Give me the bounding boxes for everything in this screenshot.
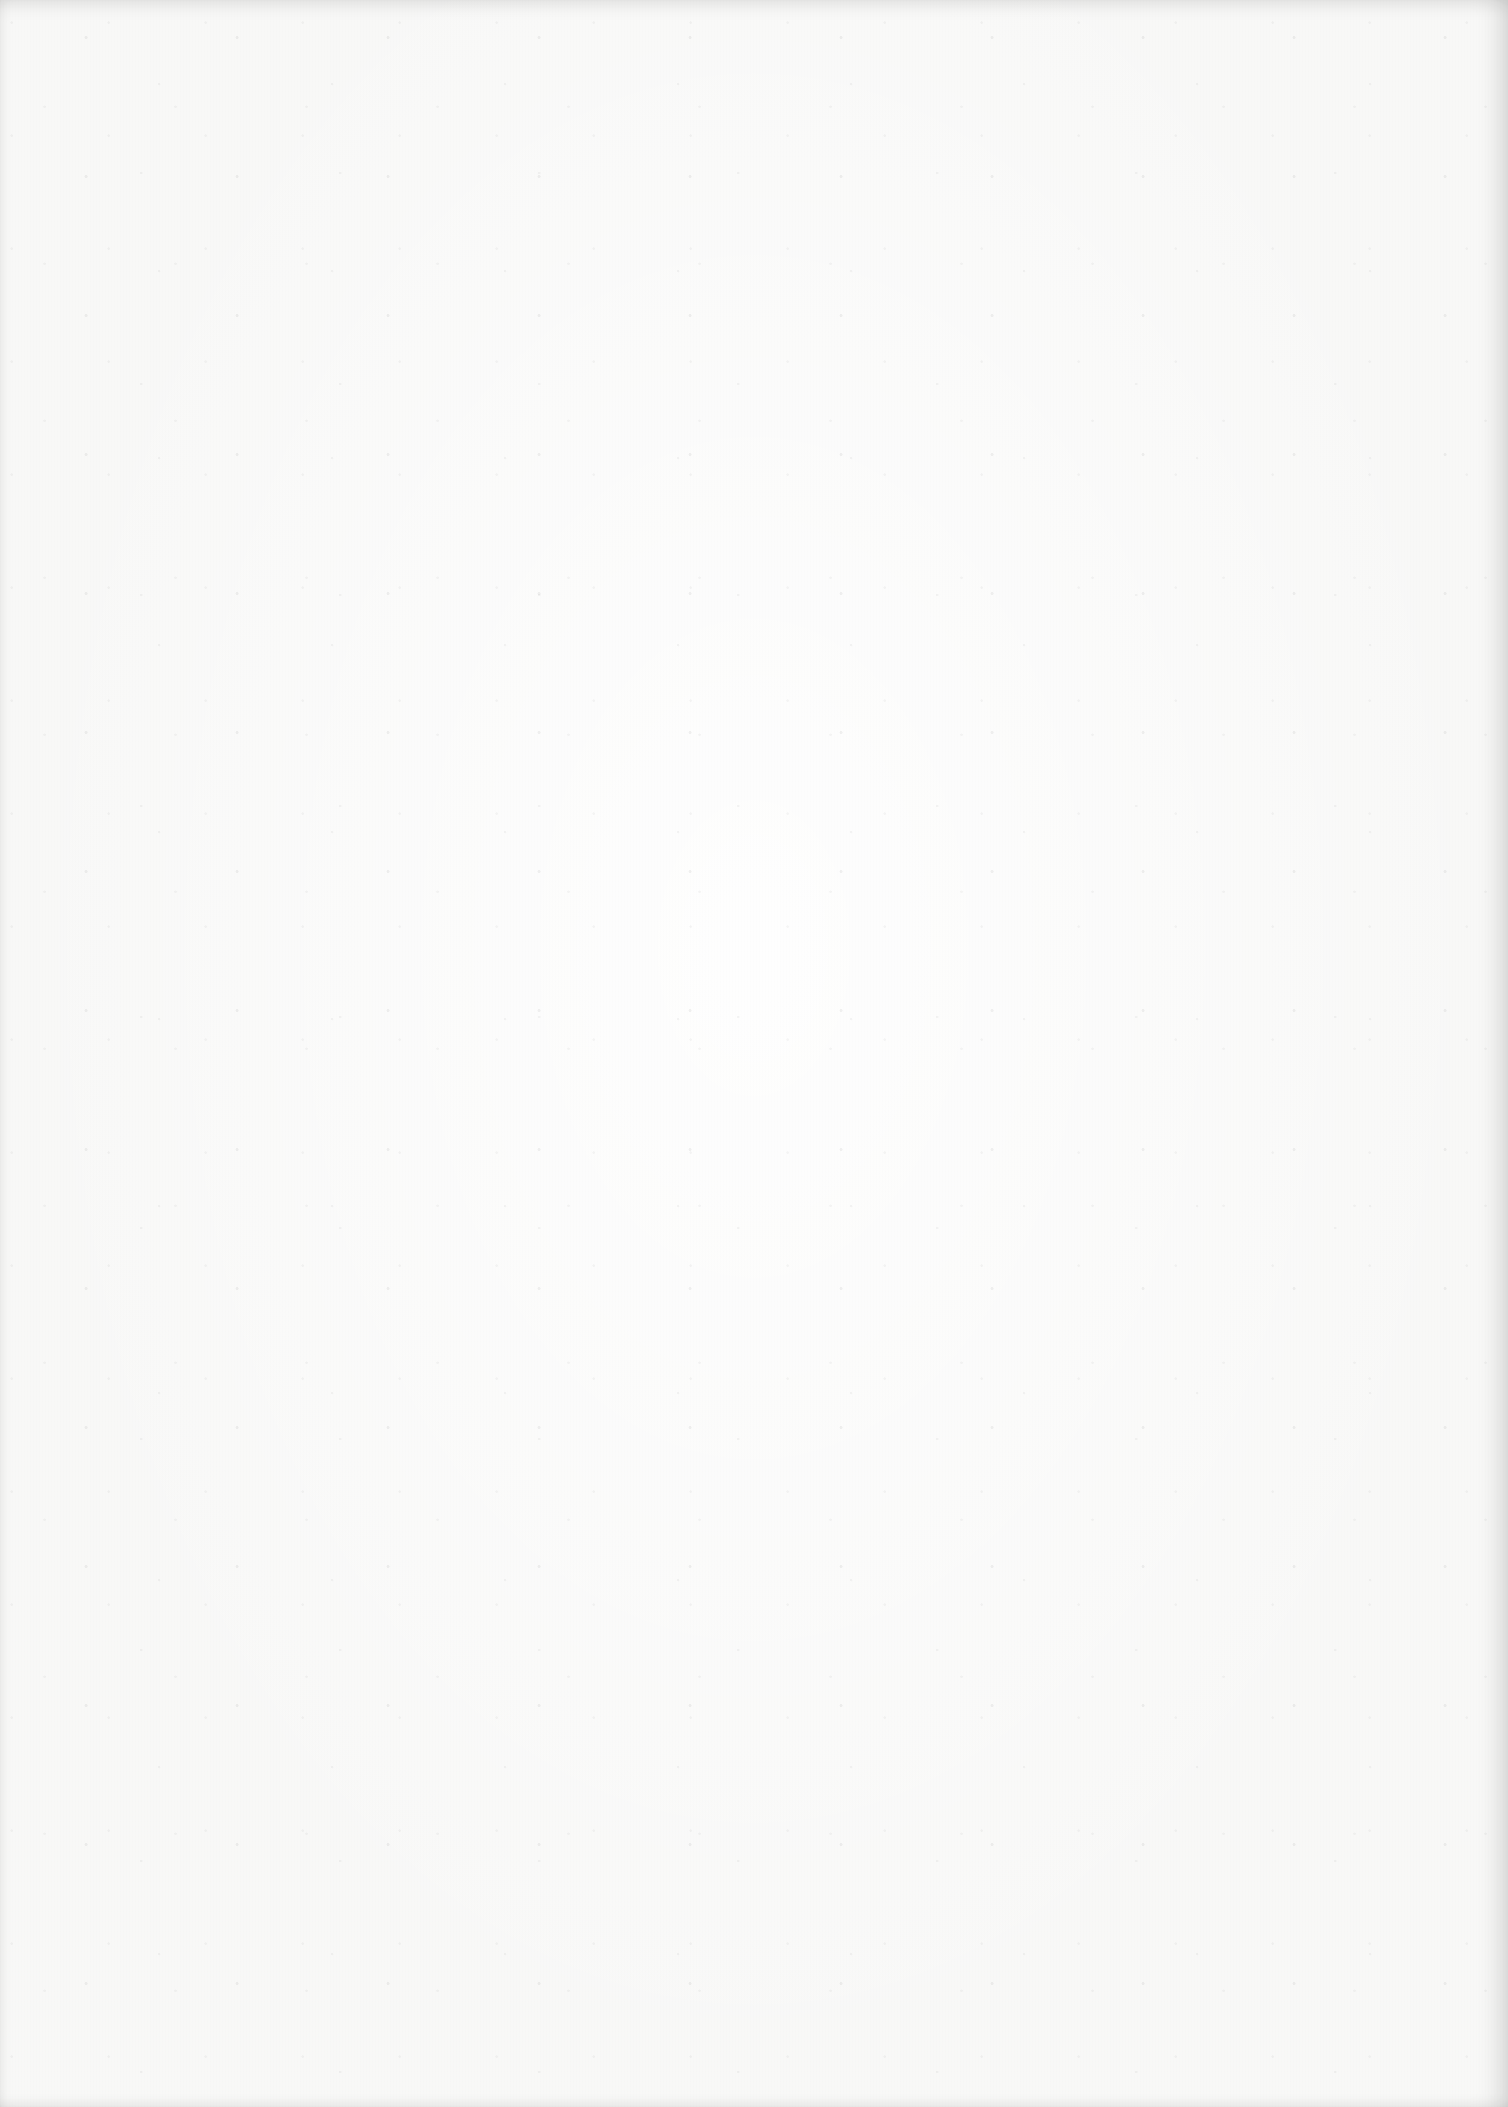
page-content-area (0, 0, 1508, 2107)
blank-paper-page (0, 0, 1508, 2107)
